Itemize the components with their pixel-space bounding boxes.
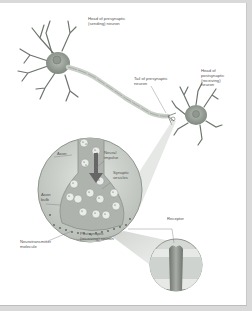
synapse-diagram <box>0 3 246 305</box>
presynaptic-axon <box>68 67 168 116</box>
label-presynaptic-head: Head of presynaptic (sending) neuron <box>88 17 125 27</box>
label-neurotransmitter: Neurotransmitter molecule <box>20 240 51 250</box>
label-synaptic-vesicles: Synaptic vesicles <box>113 171 129 181</box>
receptor-protein <box>169 245 183 291</box>
postsynaptic-nucleus <box>193 111 200 118</box>
label-postsynaptic-head: Head of postsynaptic (receiving) neuron <box>201 69 224 88</box>
label-neural-impulse: Neural impulse <box>104 151 118 161</box>
label-presynaptic-tail: Tail of presynaptic neuron <box>134 77 168 87</box>
diagram-frame: Head of presynaptic (sending) neuron Tai… <box>0 3 247 306</box>
presynaptic-nucleus <box>53 56 61 64</box>
label-postsynaptic-neuron: Postsynaptic (receiving) neuron <box>80 232 114 242</box>
receptor-magnifier <box>150 239 202 291</box>
label-axon-bulb: Axon bulb <box>41 193 51 203</box>
label-receptor: Receptor <box>167 217 184 222</box>
label-axon: Axon <box>57 152 67 157</box>
